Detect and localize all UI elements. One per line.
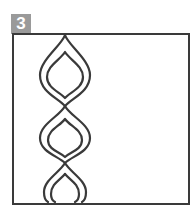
- ogee-chain-ornament: [0, 0, 196, 213]
